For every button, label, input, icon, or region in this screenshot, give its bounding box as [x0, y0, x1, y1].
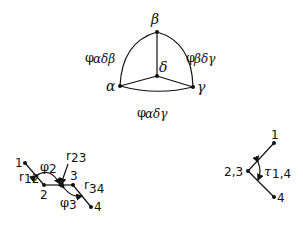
atom-4-label: 4 — [277, 191, 285, 205]
bond-angle-phi3: φ 3 — [60, 195, 77, 212]
atom-4-point — [272, 195, 276, 199]
torsion-diagram: 1 2,3 4 τ 1,4 — [224, 128, 291, 205]
vertex-beta-point — [155, 30, 159, 34]
subscript: αδβ — [93, 52, 115, 66]
torsion-tau-14: τ 1,4 — [264, 164, 291, 181]
subscript: 23 — [71, 151, 86, 165]
atom-1-label: 1 — [271, 128, 279, 142]
subscript: βδγ — [193, 52, 216, 66]
four-atom-chain-diagram: 1 2 3 4 r 12 r 23 r 34 φ 2 φ 3 — [15, 149, 104, 214]
atom-23-label: 2,3 — [224, 165, 243, 179]
atom-1-point — [23, 161, 27, 165]
vertex-gamma-label: γ — [197, 79, 206, 95]
torsion-angle-arrow — [258, 162, 260, 180]
atom-3-point — [71, 183, 75, 187]
edge-gamma-delta — [157, 76, 193, 87]
bond-length-r12: r 12 — [19, 170, 39, 186]
vertex-alpha-point — [118, 84, 122, 88]
phi-symbol: φ — [40, 159, 49, 174]
atom-23-point — [246, 169, 250, 173]
vertex-alpha-label: α — [106, 78, 116, 94]
bond-length-r23: r 23 — [66, 149, 86, 165]
vertex-beta-label: β — [150, 11, 159, 27]
edge-label-alpha-delta-beta: φ αδβ — [85, 50, 115, 66]
atom-2-point — [42, 183, 46, 187]
subscript: 2 — [49, 162, 57, 176]
subscript: 1,4 — [272, 167, 291, 181]
atom-3-label: 3 — [70, 169, 78, 183]
dihedral-triangle-diagram: β δ α γ φ αδβ φ βδγ φ αδγ — [85, 11, 216, 121]
subscript: αδγ — [145, 107, 168, 121]
edge-label-beta-delta-gamma: φ βδγ — [186, 50, 216, 66]
subscript: 3 — [69, 198, 77, 212]
edge-alpha-gamma-arc — [120, 86, 193, 91]
bond-angle-phi2: φ 2 — [40, 159, 57, 176]
subscript: 12 — [24, 172, 39, 186]
vertex-gamma-point — [191, 85, 195, 89]
subscript: 34 — [89, 182, 104, 196]
phi-symbol: φ — [60, 195, 69, 210]
bond-length-r34: r 34 — [84, 178, 104, 196]
atom-4-point — [89, 205, 93, 209]
r23-pointer-line — [61, 164, 68, 184]
tau-symbol: τ — [264, 164, 272, 179]
edge-alpha-delta — [120, 76, 157, 86]
atom-1-label: 1 — [15, 156, 23, 170]
diagram-canvas: β δ α γ φ αδβ φ βδγ φ αδγ 1 2 3 — [0, 0, 303, 225]
edge-label-alpha-delta-gamma: φ αδγ — [137, 105, 168, 121]
vertex-delta-label: δ — [159, 59, 167, 75]
atom-2-label: 2 — [40, 188, 48, 202]
atom-4-label: 4 — [94, 200, 102, 214]
